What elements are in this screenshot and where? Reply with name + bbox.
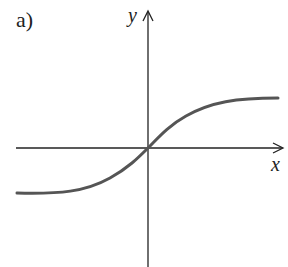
y-axis-label: y — [126, 4, 137, 27]
x-axis-label: x — [270, 153, 280, 175]
sigmoid-graph: a) x y — [0, 0, 288, 267]
panel-label: a) — [16, 7, 33, 32]
y-axis: y — [126, 4, 153, 267]
